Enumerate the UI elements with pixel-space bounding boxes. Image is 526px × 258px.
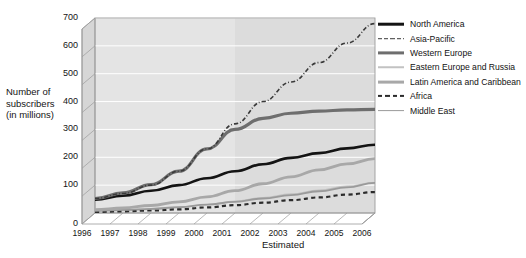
legend-item-3[interactable]: Eastern Europe and Russia <box>378 60 524 74</box>
legend: North AmericaAsia-PacificWestern EuropeE… <box>378 17 524 118</box>
legend-swatch-icon-1 <box>378 34 404 44</box>
legend-line-sample-3 <box>378 67 404 69</box>
x-axis-tick-2003: 2003 <box>265 228 291 238</box>
estimated-annotation-label: Estimated <box>262 239 304 250</box>
x-axis-tick-2006: 2006 <box>349 228 375 238</box>
legend-line-sample-2 <box>378 51 404 54</box>
legend-swatch-icon-2 <box>378 48 404 58</box>
x-axis-tick-2004: 2004 <box>293 228 319 238</box>
legend-item-2[interactable]: Western Europe <box>378 46 524 60</box>
x-axis-tick-1998: 1998 <box>125 228 151 238</box>
y-axis-tick-300: 300 <box>44 123 78 133</box>
y-axis-tick-100: 100 <box>44 179 78 189</box>
x-axis-tick-2002: 2002 <box>237 228 263 238</box>
y-axis-tick-200: 200 <box>44 151 78 161</box>
y-axis-tick-400: 400 <box>44 96 78 106</box>
legend-item-0[interactable]: North America <box>378 17 524 31</box>
legend-swatch-icon-3 <box>378 62 404 72</box>
legend-item-4[interactable]: Latin America and Caribbean <box>378 75 524 89</box>
legend-item-5[interactable]: Africa <box>378 89 524 103</box>
legend-line-sample-6 <box>378 110 404 112</box>
y-axis-tick-500: 500 <box>44 68 78 78</box>
legend-line-sample-0 <box>378 23 404 26</box>
y-axis-tick-600: 600 <box>44 40 78 50</box>
legend-label-4: Latin America and Caribbean <box>410 77 521 87</box>
x-axis-tick-1996: 1996 <box>69 228 95 238</box>
legend-label-1: Asia-Pacific <box>410 34 455 44</box>
legend-swatch-icon-5 <box>378 91 404 101</box>
legend-swatch-icon-0 <box>378 19 404 29</box>
legend-line-sample-1 <box>378 38 404 40</box>
chart-container: Number of subscribers (in millions) 0100… <box>0 0 526 258</box>
legend-swatch-icon-6 <box>378 106 404 116</box>
legend-label-0: North America <box>410 19 464 29</box>
x-axis-tick-1997: 1997 <box>97 228 123 238</box>
legend-item-1[interactable]: Asia-Pacific <box>378 31 524 45</box>
x-axis-tick-2000: 2000 <box>181 228 207 238</box>
x-axis-tick-1999: 1999 <box>153 228 179 238</box>
y-axis-tick-700: 700 <box>44 12 78 22</box>
y-axis-tick-0: 0 <box>44 218 78 228</box>
legend-label-6: Middle East <box>410 106 455 116</box>
legend-label-2: Western Europe <box>410 48 472 58</box>
legend-line-sample-5 <box>378 95 404 97</box>
x-axis-tick-2001: 2001 <box>209 228 235 238</box>
legend-label-5: Africa <box>410 91 432 101</box>
legend-label-3: Eastern Europe and Russia <box>410 62 515 72</box>
x-axis-tick-2005: 2005 <box>321 228 347 238</box>
legend-item-6[interactable]: Middle East <box>378 103 524 117</box>
legend-line-sample-4 <box>378 80 404 83</box>
legend-swatch-icon-4 <box>378 77 404 87</box>
